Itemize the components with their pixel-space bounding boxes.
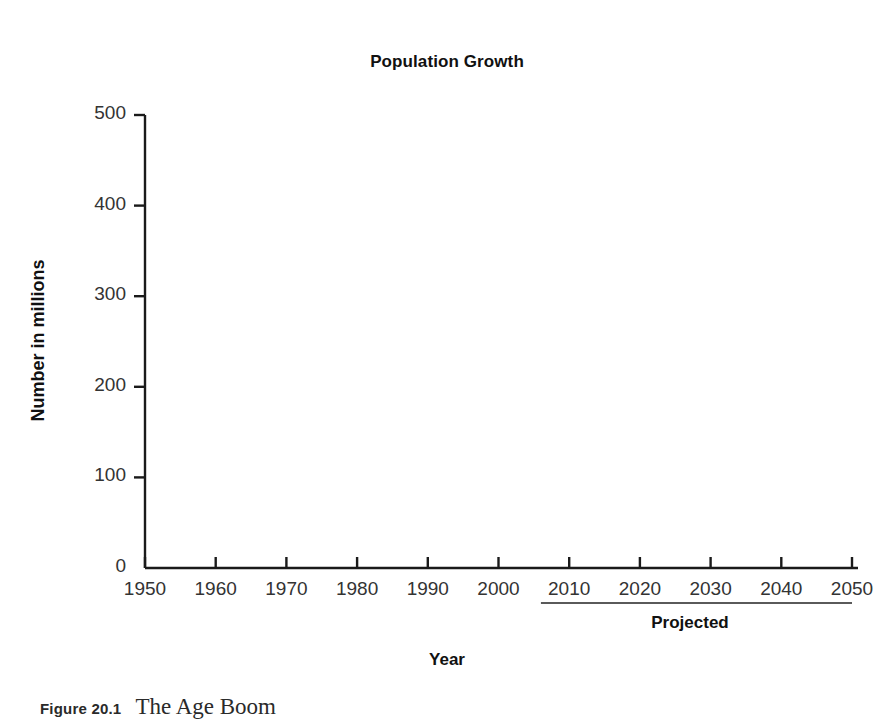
x-tick-label: 2050: [820, 578, 884, 600]
figure-caption-number: Figure 20.1: [40, 700, 121, 717]
x-tick-label: 1950: [113, 578, 177, 600]
x-tick-label: 2010: [537, 578, 601, 600]
axes-group: [134, 115, 858, 568]
x-tick-label: 1990: [396, 578, 460, 600]
x-tick-label: 2020: [608, 578, 672, 600]
y-tick-label: 100: [66, 464, 126, 486]
x-tick-label: 1980: [325, 578, 389, 600]
x-tick-label: 1960: [184, 578, 248, 600]
y-tick-label: 500: [66, 102, 126, 124]
x-tick-label: 1970: [254, 578, 318, 600]
figure-caption: Figure 20.1The Age Boom: [40, 694, 276, 720]
figure-caption-title: The Age Boom: [135, 694, 276, 719]
x-tick-label: 2030: [679, 578, 743, 600]
y-tick-label: 0: [66, 555, 126, 577]
x-tick-label: 2040: [749, 578, 813, 600]
x-tick-label: 2000: [467, 578, 531, 600]
y-tick-label: 200: [66, 374, 126, 396]
y-tick-label: 300: [66, 283, 126, 305]
y-tick-label: 400: [66, 193, 126, 215]
